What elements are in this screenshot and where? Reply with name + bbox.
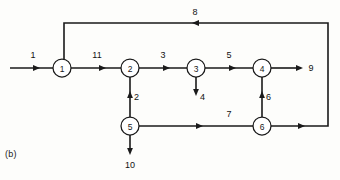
edge-11-label: 11 [92, 50, 101, 60]
edge-3-group: 3 [139, 50, 187, 71]
node-5-group[interactable]: 5 [121, 117, 139, 135]
network-diagram-canvas: 8 1 11 3 5 9 [0, 0, 340, 180]
edge-9-label: 9 [308, 63, 313, 73]
edge-6-label: 6 [266, 92, 271, 102]
figure-caption: (b) [5, 149, 17, 159]
edge-9-group: 9 [271, 63, 314, 73]
edge-9-arrowhead [296, 65, 303, 71]
edge-8-arrowhead-lower [298, 123, 305, 129]
network-diagram: 8 1 11 3 5 9 [0, 0, 340, 180]
node-2-group[interactable]: 2 [121, 59, 139, 77]
edge-11-arrowhead [99, 65, 106, 71]
edge-4-arrowhead [193, 89, 199, 96]
edge-6-group: 6 [259, 77, 271, 117]
edge-1-arrowhead [33, 65, 40, 71]
node-4-group[interactable]: 4 [253, 59, 271, 77]
node-4-label: 4 [260, 64, 265, 74]
node-3-label: 3 [194, 64, 199, 74]
edge-2-group: 2 [127, 77, 139, 117]
edge-5-label: 5 [226, 50, 231, 60]
edge-5-group: 5 [205, 50, 253, 71]
node-1-group[interactable]: 1 [53, 59, 71, 77]
edge-4-label: 4 [200, 92, 205, 102]
node-6-group[interactable]: 6 [253, 117, 271, 135]
edge-4-group: 4 [193, 77, 205, 102]
edge-8-label: 8 [192, 7, 197, 17]
edge-3-label: 3 [160, 50, 165, 60]
edge-2-arrowhead [127, 91, 133, 98]
node-1-label: 1 [60, 64, 65, 74]
edge-1-label: 1 [30, 50, 35, 60]
edge-11-group: 11 [71, 50, 121, 71]
edge-6-arrowhead [259, 91, 265, 98]
node-6-label: 6 [260, 122, 265, 132]
edge-5-arrowhead [229, 65, 236, 71]
node-5-label: 5 [128, 122, 133, 132]
edge-2-label: 2 [134, 92, 139, 102]
edge-8-arrowhead-top [192, 20, 199, 26]
node-2-label: 2 [128, 64, 133, 74]
edge-7-group: 7 [139, 109, 253, 129]
edge-3-arrowhead [163, 65, 170, 71]
edge-1-group: 1 [10, 50, 53, 71]
edge-7-arrowhead [196, 123, 203, 129]
node-3-group[interactable]: 3 [187, 59, 205, 77]
edge-7-label: 7 [226, 109, 231, 119]
edge-10-arrowhead [127, 148, 133, 155]
edge-10-label: 10 [125, 160, 135, 170]
edge-10-group: 10 [125, 135, 135, 170]
